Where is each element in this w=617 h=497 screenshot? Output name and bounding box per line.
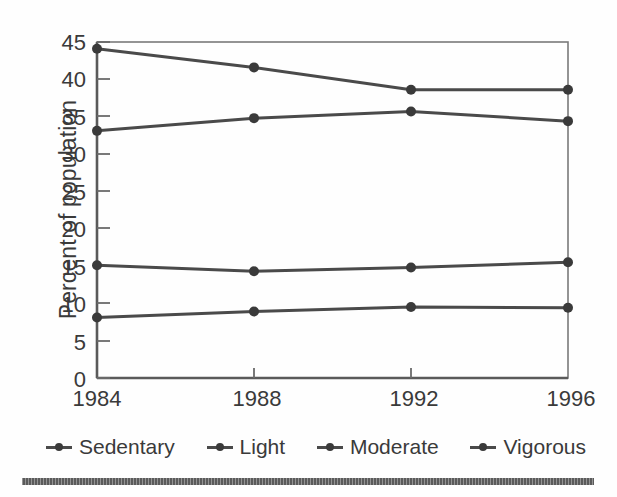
legend-marker-icon xyxy=(207,441,233,453)
data-point-light-1992 xyxy=(406,106,416,116)
legend-marker-icon xyxy=(470,441,496,453)
series-line-vigorous xyxy=(97,307,568,317)
data-point-vigorous-1996 xyxy=(563,303,573,313)
data-point-vigorous-1988 xyxy=(249,307,259,317)
data-point-vigorous-1992 xyxy=(406,302,416,312)
plot-area xyxy=(0,0,617,497)
legend-item-moderate[interactable]: Moderate xyxy=(317,435,439,459)
data-point-sedentary-1988 xyxy=(249,62,259,72)
legend-item-sedentary[interactable]: Sedentary xyxy=(46,435,175,459)
chart-figure: Percent of population 45 40 35 30 25 20 … xyxy=(0,0,617,497)
axis-frame xyxy=(97,42,568,378)
data-point-sedentary-1984 xyxy=(92,44,102,54)
data-point-sedentary-1992 xyxy=(406,85,416,95)
data-point-moderate-1988 xyxy=(249,266,259,276)
legend-label-light: Light xyxy=(240,435,286,459)
series-line-light xyxy=(97,111,568,130)
data-point-moderate-1992 xyxy=(406,262,416,272)
data-point-light-1988 xyxy=(249,113,259,123)
data-point-moderate-1996 xyxy=(563,257,573,267)
data-point-vigorous-1984 xyxy=(92,313,102,323)
legend-item-vigorous[interactable]: Vigorous xyxy=(470,435,586,459)
legend-label-vigorous: Vigorous xyxy=(503,435,586,459)
data-point-light-1996 xyxy=(563,116,573,126)
y-axis-ticks xyxy=(97,42,110,378)
data-point-sedentary-1996 xyxy=(563,85,573,95)
data-point-moderate-1984 xyxy=(92,260,102,270)
series-line-moderate xyxy=(97,262,568,271)
legend-label-sedentary: Sedentary xyxy=(79,435,175,459)
legend-marker-icon xyxy=(46,441,72,453)
x-axis-ticks xyxy=(254,368,411,378)
bottom-rule xyxy=(22,478,594,485)
legend-item-light[interactable]: Light xyxy=(207,435,286,459)
legend-label-moderate: Moderate xyxy=(350,435,439,459)
legend-marker-icon xyxy=(317,441,343,453)
series-line-sedentary xyxy=(97,49,568,90)
series-layer xyxy=(92,44,573,323)
data-point-light-1984 xyxy=(92,126,102,136)
chart-legend: Sedentary Light Moderate Vigorous xyxy=(46,432,586,462)
